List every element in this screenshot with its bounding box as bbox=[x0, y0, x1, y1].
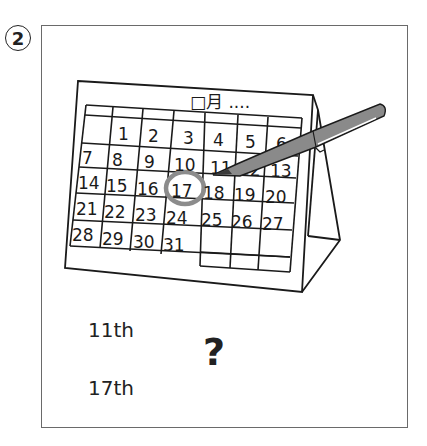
date-cell: 19 bbox=[234, 185, 256, 205]
date-cell: 18 bbox=[203, 183, 225, 203]
date-cell: 14 bbox=[78, 173, 100, 193]
option-label: 11th bbox=[88, 318, 134, 342]
date-cell: 10 bbox=[174, 155, 196, 175]
date-cell: 17 bbox=[171, 181, 193, 201]
option-17th[interactable]: 17th bbox=[88, 376, 134, 400]
date-cell: 21 bbox=[76, 199, 98, 219]
option-11th[interactable]: 11th bbox=[88, 318, 134, 342]
calendar-illustration: □月 .... 1 2 3 4 5 6 7 8 9 10 11 bbox=[0, 0, 427, 446]
date-cell: 5 bbox=[245, 132, 256, 152]
date-cell: 16 bbox=[137, 179, 159, 199]
date-cell: 30 bbox=[133, 232, 155, 252]
date-cell: 1 bbox=[118, 124, 129, 144]
question-mark: ? bbox=[203, 330, 225, 374]
date-cell: 31 bbox=[163, 235, 185, 255]
date-cell: 29 bbox=[102, 229, 124, 249]
date-cell: 22 bbox=[104, 202, 126, 222]
date-cell: 26 bbox=[231, 212, 253, 232]
date-cell: 23 bbox=[135, 205, 157, 225]
date-cell: 9 bbox=[144, 152, 155, 172]
date-cell: 3 bbox=[183, 128, 194, 148]
date-cell: 2 bbox=[148, 126, 159, 146]
calendar-month-header: □月 .... bbox=[190, 92, 250, 112]
date-cell: 15 bbox=[106, 176, 128, 196]
date-cell: 27 bbox=[262, 214, 284, 234]
date-cell: 8 bbox=[112, 150, 123, 170]
date-cell: 20 bbox=[265, 187, 287, 207]
option-label: 17th bbox=[88, 376, 134, 400]
date-cell: 25 bbox=[201, 210, 223, 230]
date-cell: 4 bbox=[213, 130, 224, 150]
date-cell: 7 bbox=[82, 148, 93, 168]
date-cell: 24 bbox=[166, 208, 188, 228]
date-cell: 28 bbox=[72, 225, 94, 245]
